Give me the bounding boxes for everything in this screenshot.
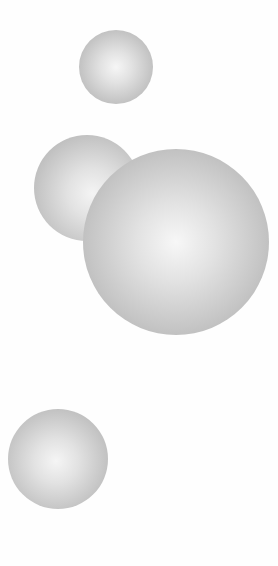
sphere-scene	[0, 0, 278, 566]
sphere-bottom-left	[8, 409, 108, 509]
sphere-top-small	[79, 30, 153, 104]
sphere-large	[83, 149, 269, 335]
